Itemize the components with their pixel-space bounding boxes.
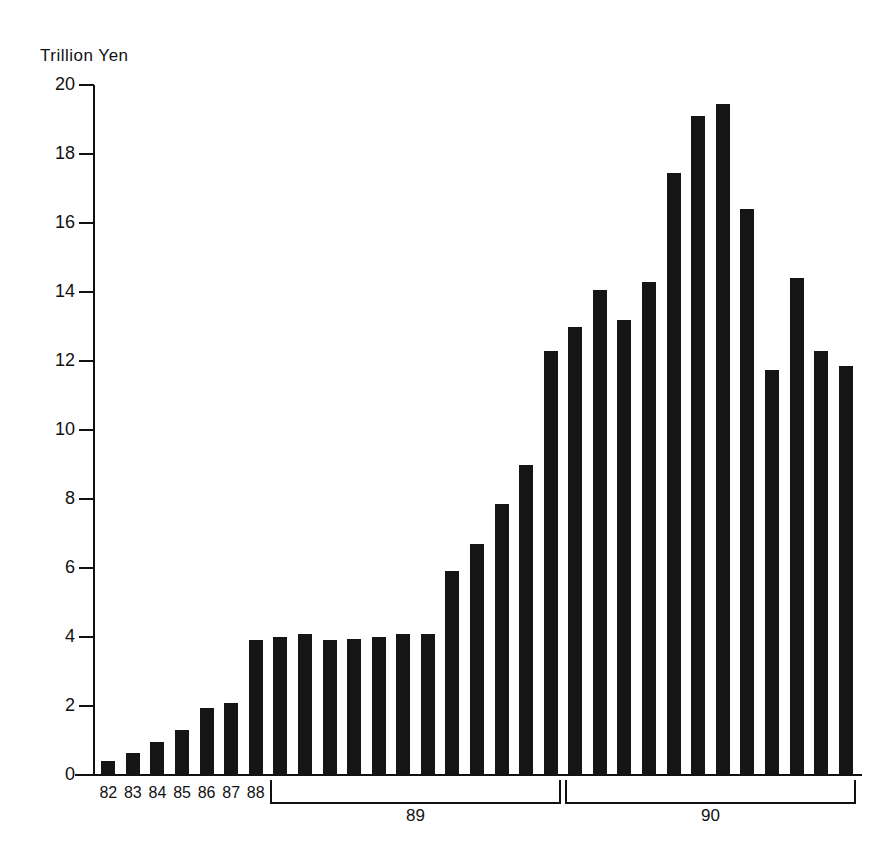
bar bbox=[200, 708, 214, 775]
bar bbox=[445, 571, 459, 775]
y-axis-tick bbox=[79, 84, 94, 86]
x-axis-group-label: 89 bbox=[406, 806, 425, 826]
y-axis-tick-label: 0 bbox=[35, 764, 75, 785]
y-axis-tick-label: 4 bbox=[35, 626, 75, 647]
bar bbox=[593, 290, 607, 775]
y-axis-tick bbox=[79, 498, 94, 500]
bar bbox=[396, 634, 410, 775]
bar bbox=[716, 104, 730, 775]
y-axis-tick-label: 20 bbox=[35, 74, 75, 95]
bar bbox=[101, 761, 115, 775]
y-axis-tick bbox=[79, 153, 94, 155]
y-axis-tick bbox=[79, 222, 94, 224]
plot-area: 20181614121086420 82838485868788 8990 bbox=[0, 0, 888, 863]
y-axis-tick-label: 12 bbox=[35, 350, 75, 371]
bar bbox=[740, 209, 754, 775]
x-axis-tick-label: 86 bbox=[198, 784, 216, 802]
bar bbox=[323, 640, 337, 775]
bar bbox=[568, 327, 582, 776]
y-axis-tick-label: 16 bbox=[35, 212, 75, 233]
bar bbox=[347, 639, 361, 775]
bar bbox=[150, 742, 164, 775]
bar bbox=[642, 282, 656, 775]
x-axis-tick-label: 88 bbox=[247, 784, 265, 802]
y-axis-tick bbox=[79, 774, 94, 776]
bar bbox=[519, 465, 533, 776]
x-axis-tick-label: 83 bbox=[124, 784, 142, 802]
bar bbox=[224, 703, 238, 775]
y-axis-tick-label: 18 bbox=[35, 143, 75, 164]
bar bbox=[839, 366, 853, 775]
bar bbox=[617, 320, 631, 775]
x-axis-tick-label: 85 bbox=[173, 784, 191, 802]
y-axis-tick bbox=[79, 360, 94, 362]
y-axis-tick bbox=[79, 291, 94, 293]
bar bbox=[372, 637, 386, 775]
y-axis-tick-label: 8 bbox=[35, 488, 75, 509]
bar bbox=[790, 278, 804, 775]
bar bbox=[765, 370, 779, 775]
bar bbox=[667, 173, 681, 775]
bar-chart-figure: Trillion Yen 20181614121086420 828384858… bbox=[0, 0, 888, 863]
y-axis-tick-label: 2 bbox=[35, 695, 75, 716]
x-axis-group-bracket bbox=[565, 780, 856, 804]
bar bbox=[544, 351, 558, 775]
bar bbox=[814, 351, 828, 775]
y-axis-tick-label: 6 bbox=[35, 557, 75, 578]
bar bbox=[421, 634, 435, 775]
x-axis-tick-label: 82 bbox=[99, 784, 117, 802]
y-axis-tick bbox=[79, 636, 94, 638]
bar bbox=[126, 753, 140, 775]
x-axis-group-bracket bbox=[270, 780, 561, 804]
bar bbox=[298, 634, 312, 775]
x-axis-tick-label: 87 bbox=[222, 784, 240, 802]
bar bbox=[495, 504, 509, 775]
bar bbox=[249, 640, 263, 775]
bar bbox=[273, 637, 287, 775]
bar bbox=[175, 730, 189, 775]
x-axis-tick-label: 84 bbox=[149, 784, 167, 802]
y-axis-tick-label: 10 bbox=[35, 419, 75, 440]
y-axis-tick-label: 14 bbox=[35, 281, 75, 302]
y-axis-tick bbox=[79, 429, 94, 431]
bar bbox=[691, 116, 705, 775]
y-axis-tick bbox=[79, 567, 94, 569]
bar bbox=[470, 544, 484, 775]
x-axis-group-label: 90 bbox=[701, 806, 720, 826]
y-axis-tick bbox=[79, 705, 94, 707]
